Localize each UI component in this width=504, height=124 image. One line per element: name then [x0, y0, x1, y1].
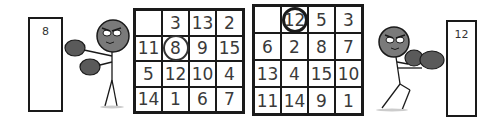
left-board-number: 8: [30, 25, 61, 38]
right-boxer-figure: [372, 0, 447, 124]
left-number-grid: 3 13 2 11 8 9 15 5 12 10 4 14 1 6 7: [133, 8, 245, 114]
grid-cell: 15: [216, 36, 243, 62]
grid-cell: 1: [162, 87, 189, 113]
grid-cell: 10: [189, 61, 216, 87]
grid-cell: 8: [308, 33, 335, 60]
grid-cell: 15: [308, 60, 335, 87]
grid-cell: 5: [308, 6, 335, 33]
grid-cell: 5: [135, 61, 162, 87]
grid-cell: 10: [335, 60, 362, 87]
grid-cell: 7: [216, 87, 243, 113]
grid-cell: 3: [335, 6, 362, 33]
grid-cell: 14: [135, 87, 162, 113]
grid-cell: 13: [254, 60, 281, 87]
grid-cell: 9: [308, 87, 335, 114]
grid-cell: 2: [281, 33, 308, 60]
grid-cell: 11: [135, 36, 162, 62]
grid-cell: 7: [335, 33, 362, 60]
grid-cell: 11: [254, 87, 281, 114]
grid-cell: 2: [216, 10, 243, 36]
grid-cell: 4: [281, 60, 308, 87]
grid-cell: 6: [189, 87, 216, 113]
left-boxer-figure: [60, 0, 135, 124]
grid-cell: [254, 6, 281, 33]
grid-cell: 1: [335, 87, 362, 114]
grid-cell: 4: [216, 61, 243, 87]
grid-cell: [135, 10, 162, 36]
right-number-grid: 12 5 3 6 2 8 7 13 4 15 10 11 14 9 1: [252, 4, 364, 116]
grid-cell-circled: 12: [281, 6, 308, 33]
left-punching-board: 8: [28, 17, 63, 112]
grid-cell: 12: [162, 61, 189, 87]
right-board-number: 12: [448, 28, 475, 41]
grid-cell: 13: [189, 10, 216, 36]
grid-cell: 9: [189, 36, 216, 62]
right-punching-board: 12: [446, 20, 477, 117]
grid-cell: 14: [281, 87, 308, 114]
grid-cell: 6: [254, 33, 281, 60]
grid-cell-circled: 8: [162, 36, 189, 62]
grid-cell: 3: [162, 10, 189, 36]
